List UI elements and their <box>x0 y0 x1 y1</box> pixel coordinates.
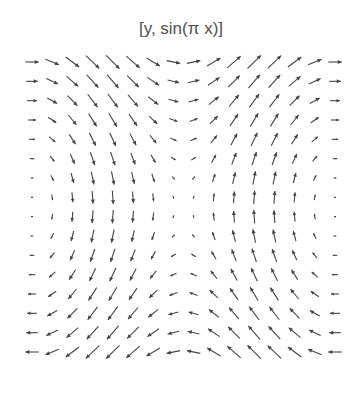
vector-arrow <box>191 254 195 257</box>
vector-arrow <box>290 308 300 318</box>
vector-arrow <box>67 76 79 86</box>
vector-arrow <box>232 230 236 242</box>
vector-arrow <box>190 138 196 141</box>
vector-arrow <box>110 133 116 146</box>
vector-arrow <box>88 307 98 320</box>
vector-field-plot <box>0 0 362 394</box>
vector-arrow <box>47 311 57 316</box>
vector-arrow <box>313 253 317 258</box>
vector-arrow <box>148 97 158 105</box>
vector-arrow <box>211 271 217 279</box>
vector-arrow <box>45 349 58 355</box>
vector-arrow <box>91 191 95 204</box>
vector-arrow <box>50 156 54 161</box>
vector-arrow <box>131 230 135 242</box>
vector-arrow <box>331 293 339 296</box>
vector-arrow <box>293 192 296 202</box>
vector-arrow <box>190 292 198 295</box>
vector-arrow <box>250 113 258 126</box>
vector-arrow <box>313 175 316 180</box>
vector-arrow <box>227 56 240 68</box>
vector-arrow <box>248 326 260 339</box>
vector-arrow <box>310 311 320 316</box>
vector-arrow <box>29 274 35 276</box>
vector-arrow <box>168 312 178 316</box>
vector-arrow <box>252 210 256 223</box>
vector-arrow <box>27 312 37 315</box>
vector-arrow <box>147 329 159 337</box>
vector-arrow <box>126 56 139 68</box>
vector-arrow <box>313 156 317 161</box>
vector-arrow <box>111 191 115 204</box>
vector-arrow <box>89 288 97 301</box>
vector-arrow <box>251 268 257 281</box>
vector-arrow <box>209 309 219 317</box>
vector-arrow <box>106 55 119 68</box>
vector-arrow <box>111 171 115 184</box>
vector-arrow <box>232 211 236 223</box>
vector-arrow <box>171 254 175 257</box>
vector-arrow <box>90 230 94 243</box>
vector-arrow <box>272 210 276 223</box>
vector-arrow <box>173 196 174 199</box>
vector-arrow <box>268 56 281 69</box>
vector-arrow <box>308 349 321 355</box>
vector-arrow <box>25 60 38 64</box>
vector-arrow <box>129 114 137 126</box>
vector-arrow <box>48 117 56 122</box>
vector-arrow <box>314 195 316 200</box>
vector-arrow <box>332 138 338 140</box>
vector-arrow <box>334 216 336 217</box>
vector-arrow <box>187 59 200 63</box>
vector-arrow <box>313 233 316 238</box>
vector-arrow <box>208 77 220 85</box>
vector-arrow <box>89 268 95 281</box>
vector-arrow <box>28 293 36 296</box>
vector-arrow <box>251 249 256 262</box>
vector-arrow <box>293 212 296 222</box>
vector-arrow <box>108 94 118 107</box>
vector-arrow <box>269 94 279 107</box>
vector-arrow <box>31 216 33 217</box>
vector-arrow <box>252 152 257 165</box>
vector-arrow <box>227 346 240 358</box>
vector-arrow <box>169 293 177 296</box>
vector-arrow <box>167 351 180 355</box>
vector-arrow <box>151 251 155 259</box>
vector-arrow <box>330 312 340 315</box>
vector-arrow <box>152 174 155 182</box>
vector-arrow <box>149 116 157 124</box>
vector-arrow <box>110 249 115 262</box>
vector-arrow <box>68 289 76 299</box>
vector-arrow <box>332 274 338 276</box>
vector-arrow <box>170 138 176 141</box>
vector-arrow <box>292 154 297 164</box>
vector-arrow <box>151 232 154 240</box>
vector-arrow <box>87 75 99 88</box>
vector-arrow <box>172 177 175 180</box>
vector-arrow <box>26 331 38 335</box>
vector-arrow <box>109 287 117 300</box>
vector-arrow <box>228 76 240 88</box>
vector-arrow <box>212 251 216 259</box>
vector-arrow <box>146 348 159 356</box>
vector-arrow <box>291 270 297 280</box>
vector-arrow <box>269 75 281 88</box>
vector-arrow <box>127 76 139 88</box>
vector-arrow <box>210 116 218 124</box>
vector-arrow <box>128 308 138 320</box>
vector-arrow <box>291 289 299 299</box>
vector-arrow <box>131 153 136 165</box>
vector-arrow <box>86 346 99 359</box>
vector-arrow <box>311 117 319 122</box>
vector-arrow <box>228 327 240 339</box>
vector-arrow <box>288 347 301 357</box>
vector-arrow <box>334 178 337 179</box>
vector-arrow <box>168 331 180 335</box>
vector-arrow <box>271 133 277 146</box>
vector-arrow <box>26 79 38 83</box>
vector-arrow <box>148 309 158 317</box>
vector-arrow <box>188 79 200 83</box>
vector-arrow <box>110 229 114 242</box>
vector-arrow <box>230 114 238 126</box>
